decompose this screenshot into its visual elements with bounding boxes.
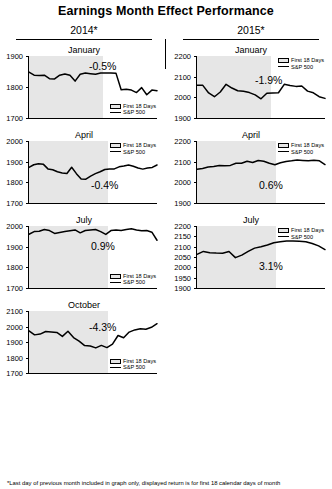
chart-title: January [170,44,332,56]
legend-shaded-swatch [278,228,289,233]
y-axis: 2200210020001900 [170,56,194,118]
legend-shaded-swatch [110,274,121,279]
chart-panel-october-2014: October21002000190018001700-4.3%First 18… [2,299,166,373]
y-tick-label: 2200 [174,222,191,231]
chart-panel-january-2014: January190018001700-0.5%First 18 DaysS&P… [2,44,166,118]
column-header-2014: 2014* [16,24,152,40]
legend-line-swatch [278,66,289,67]
legend-shaded-swatch [110,359,121,364]
legend-label-sp500: S&P 500 [291,64,313,71]
chart-title: July [2,214,166,226]
y-tick-label: 1700 [6,199,23,208]
legend-label-first-18-days: First 18 Days [123,142,156,149]
y-tick-label: 2100 [174,72,191,81]
y-tick-label: 2100 [174,157,191,166]
y-tick-label: 1800 [6,353,23,362]
legend-label-sp500: S&P 500 [291,234,313,241]
chart-legend: First 18 DaysS&P 500 [110,358,156,371]
column-2014: 2014* January190018001700-0.5%First 18 D… [0,19,166,467]
return-annotation: -0.4% [91,179,118,191]
legend-label-sp500: S&P 500 [123,364,145,371]
y-tick-label: 2050 [174,253,191,262]
chart-panel-july-2015: July22002150210020502000195019003.1%Firs… [170,214,332,288]
y-tick-label: 1900 [6,338,23,347]
chart-title: April [170,129,332,141]
legend-label-first-18-days: First 18 Days [123,103,156,110]
y-tick-label: 1800 [6,263,23,272]
chart-panel-july-2014: July20001900180017000.9%First 18 DaysS&P… [2,214,166,288]
legend-shaded-swatch [110,104,121,109]
return-annotation: 0.6% [259,179,283,191]
chart-title: October [2,299,166,311]
y-tick-label: 2150 [174,232,191,241]
chart-legend: First 18 DaysS&P 500 [278,57,324,70]
y-axis: 190018001700 [2,56,26,118]
y-tick-label: 1700 [6,284,23,293]
y-tick-label: 2000 [174,263,191,272]
legend-label-sp500: S&P 500 [291,149,313,156]
chart-panel-april-2015: April22002100200019000.6%First 18 DaysS&… [170,129,332,203]
y-tick-label: 2000 [6,322,23,331]
legend-label-first-18-days: First 18 Days [123,358,156,365]
y-tick-label: 1900 [6,242,23,251]
plot-area: 0.9%First 18 DaysS&P 500 [28,226,157,289]
plot-area: 0.6%First 18 DaysS&P 500 [196,141,325,204]
chart-panel-april-2014: April2000190018001700-0.4%First 18 DaysS… [2,129,166,203]
y-tick-label: 2200 [174,137,191,146]
chart-legend: First 18 DaysS&P 500 [278,227,324,240]
y-tick-label: 2100 [6,307,23,316]
legend-label-first-18-days: First 18 Days [291,227,324,234]
y-tick-label: 1900 [6,52,23,61]
plot-area: -0.4%First 18 DaysS&P 500 [28,141,157,204]
legend-line-swatch [110,282,121,283]
return-annotation: 3.1% [259,260,283,272]
legend-label-first-18-days: First 18 Days [291,57,324,64]
legend-shaded-swatch [278,58,289,63]
legend-shaded-swatch [110,143,121,148]
return-annotation: -0.5% [89,60,116,72]
y-tick-label: 2100 [174,242,191,251]
chart-title: July [170,214,332,226]
y-axis: 2200210020001900 [170,141,194,203]
legend-line-swatch [110,367,121,368]
y-tick-label: 2000 [6,222,23,231]
legend-line-swatch [110,151,121,152]
y-tick-mark [26,288,29,289]
y-tick-label: 2000 [174,178,191,187]
legend-label-sp500: S&P 500 [123,149,145,156]
chart-legend: First 18 DaysS&P 500 [110,103,156,116]
return-annotation: -1.9% [255,74,282,86]
y-axis: 2200215021002050200019501900 [170,226,194,288]
y-axis: 21002000190018001700 [2,311,26,373]
chart-title: April [2,129,166,141]
chart-legend: First 18 DaysS&P 500 [110,142,156,155]
page-title: Earnings Month Effect Performance [0,0,332,19]
y-tick-label: 1900 [174,284,191,293]
chart-legend: First 18 DaysS&P 500 [278,142,324,155]
legend-label-first-18-days: First 18 Days [291,142,324,149]
y-tick-label: 1800 [6,83,23,92]
y-tick-label: 2200 [174,52,191,61]
plot-area: -4.3%First 18 DaysS&P 500 [28,311,157,374]
chart-panel-january-2015: January2200210020001900-1.9%First 18 Day… [170,44,332,118]
footnote: *Last day of previous month included in … [7,480,280,486]
y-tick-label: 2000 [6,137,23,146]
charts-grid: 2014* January190018001700-0.5%First 18 D… [0,19,332,467]
legend-label-sp500: S&P 500 [123,109,145,116]
plot-area: -0.5%First 18 DaysS&P 500 [28,56,157,119]
column-header-2015: 2015* [183,24,319,40]
y-tick-label: 2000 [174,93,191,102]
return-annotation: 0.9% [91,240,115,252]
y-tick-label: 1900 [174,199,191,208]
chart-title: January [2,44,166,56]
y-tick-label: 1900 [6,157,23,166]
chart-legend: First 18 DaysS&P 500 [110,273,156,286]
y-tick-label: 1800 [6,178,23,187]
plot-area: 3.1%First 18 DaysS&P 500 [196,226,325,289]
legend-line-swatch [278,236,289,237]
legend-label-first-18-days: First 18 Days [123,273,156,280]
y-tick-mark [26,373,29,374]
y-tick-mark [194,118,197,119]
y-tick-mark [26,203,29,204]
y-axis: 2000190018001700 [2,141,26,203]
